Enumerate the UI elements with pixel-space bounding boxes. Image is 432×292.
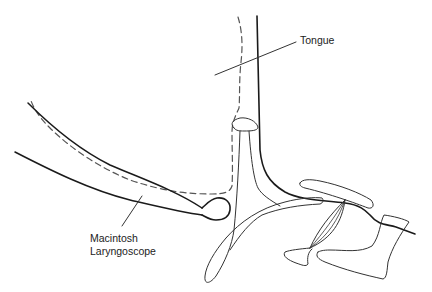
vocal-cord-inner-1 bbox=[310, 200, 345, 248]
cricoid-cartilage bbox=[317, 215, 409, 279]
tongue-leader-line bbox=[215, 42, 296, 75]
laryngoscope-blade-tip bbox=[202, 198, 230, 220]
tongue-label: Tongue bbox=[300, 34, 334, 47]
aryepiglottic-fold bbox=[300, 180, 373, 208]
vocal-cord-outer-2 bbox=[310, 200, 345, 248]
laryngoscope-blade-upper bbox=[28, 103, 202, 208]
laryngoscope-label-line2: Laryngoscope bbox=[90, 245, 156, 258]
hyoid-curve-outer bbox=[226, 198, 323, 250]
laryngoscope-diagram bbox=[0, 0, 432, 292]
laryngoscope-label-line1: Macintosh bbox=[90, 232, 156, 245]
arytenoid-cartilage bbox=[284, 248, 312, 266]
tongue-dashed-outline bbox=[30, 17, 242, 194]
laryngoscope-blade-lower bbox=[15, 152, 202, 215]
epiglottis-tip bbox=[232, 118, 258, 131]
epiglottis-stem-left bbox=[205, 131, 240, 282]
vocal-cord-inner-2 bbox=[310, 200, 345, 248]
macintosh-laryngoscope-label: Macintosh Laryngoscope bbox=[90, 232, 156, 258]
vocal-cord-outer-1 bbox=[310, 200, 345, 248]
